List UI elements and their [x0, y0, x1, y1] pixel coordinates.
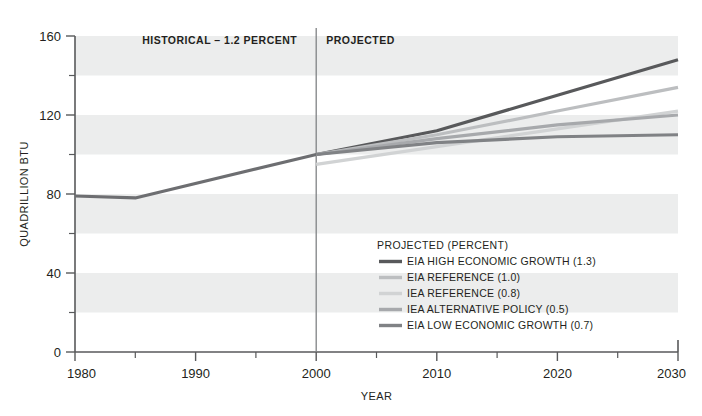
x-axis-tick-label: 2020 — [543, 366, 572, 381]
legend-label-4: IEA ALTERNATIVE POLICY (0.5) — [407, 303, 569, 315]
series-line-historical — [75, 155, 316, 198]
projected-period-label: PROJECTED — [326, 34, 395, 46]
x-axis-tick-label: 2030 — [657, 366, 686, 381]
x-axis-tick-label: 1990 — [181, 366, 210, 381]
y-axis-tick-label: 80 — [47, 187, 61, 202]
energy-consumption-line-chart: 04080120160198019902000201020202030HISTO… — [0, 0, 702, 416]
x-axis-tick-label: 2010 — [422, 366, 451, 381]
legend-label-3: IEA REFERENCE (0.8) — [407, 287, 520, 299]
y-axis-tick-label: 120 — [39, 108, 61, 123]
legend-title: PROJECTED (PERCENT) — [377, 239, 508, 251]
x-axis-tick-label: 1980 — [67, 366, 96, 381]
historical-period-label: HISTORICAL – 1.2 PERCENT — [142, 34, 297, 46]
x-axis-title: YEAR — [361, 390, 393, 402]
legend-label-2: EIA REFERENCE (1.0) — [407, 271, 520, 283]
y-axis-tick-label: 40 — [47, 266, 61, 281]
legend-label-5: EIA LOW ECONOMIC GROWTH (0.7) — [407, 319, 593, 331]
legend-label-1: EIA HIGH ECONOMIC GROWTH (1.3) — [407, 255, 596, 267]
y-axis-tick-label: 0 — [54, 345, 61, 360]
y-axis-title: QUADRILLION BTU — [18, 141, 30, 247]
y-axis-tick-label: 160 — [39, 29, 61, 44]
background-band — [75, 273, 678, 313]
x-axis-tick-label: 2000 — [302, 366, 331, 381]
background-band — [75, 194, 678, 234]
chart-container: 04080120160198019902000201020202030HISTO… — [0, 0, 702, 416]
